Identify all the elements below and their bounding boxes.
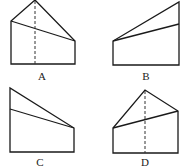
figure-a: A xyxy=(11,0,75,82)
figure-outline xyxy=(10,88,74,152)
figure-outline xyxy=(11,0,75,64)
diagram-canvas: ABCD xyxy=(0,0,182,168)
figure-outline xyxy=(113,2,179,65)
figure-c: C xyxy=(10,88,74,168)
inner-line xyxy=(113,24,179,41)
figure-d: D xyxy=(113,90,178,168)
figure-label: D xyxy=(141,156,149,168)
figure-label: A xyxy=(38,70,46,82)
figure-label: B xyxy=(142,70,149,82)
figure-b: B xyxy=(113,2,179,82)
figure-label: C xyxy=(36,156,43,168)
inner-line xyxy=(10,109,74,128)
